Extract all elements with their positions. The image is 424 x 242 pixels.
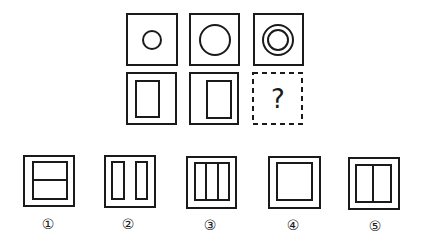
small-circle-icon	[143, 31, 161, 49]
option-4[interactable]: ④	[269, 157, 320, 233]
option-label-2: ②	[122, 216, 135, 232]
inner-rectangle-right	[136, 162, 147, 199]
inner-circle-icon	[268, 30, 288, 50]
grid-cell-2	[190, 14, 239, 65]
inner-rectangle-right	[207, 81, 231, 118]
option-label-4: ④	[287, 217, 300, 233]
option-5[interactable]: ⑤	[349, 158, 399, 234]
grid-cell-1	[127, 14, 177, 65]
outer-square	[190, 14, 239, 65]
grid-cell-5	[190, 73, 238, 124]
grid-cell-3	[254, 14, 303, 65]
large-circle-icon	[200, 25, 230, 55]
outer-square	[127, 14, 177, 65]
grid-cell-6-answer-slot: ?	[253, 73, 302, 124]
option-label-5: ⑤	[369, 218, 382, 234]
option-2[interactable]: ②	[105, 156, 155, 232]
inner-rectangle	[195, 163, 229, 200]
question-mark: ?	[271, 84, 285, 114]
option-3[interactable]: ③	[187, 157, 236, 233]
inner-rectangle-left	[136, 81, 159, 117]
inner-square	[277, 163, 312, 200]
option-label-3: ③	[204, 217, 217, 233]
option-label-1: ①	[42, 216, 55, 232]
grid-cell-4	[127, 73, 176, 124]
puzzle-canvas: ? ① ② ③ ④ ⑤	[0, 0, 424, 242]
option-1[interactable]: ①	[24, 156, 74, 232]
inner-rectangle-left	[112, 162, 124, 199]
outer-square	[254, 14, 303, 65]
